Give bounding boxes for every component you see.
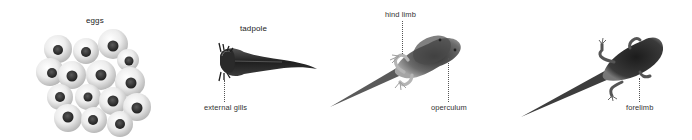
illustrations (0, 0, 692, 140)
tadpole-title: tadpole (240, 24, 267, 33)
operculum-leader-line (448, 58, 449, 102)
tadpole-hind-limbs-illustration (330, 30, 461, 107)
forelimb-label: forelimb (626, 103, 653, 112)
tadpole-illustration (219, 43, 317, 81)
hind-limb-leader-line (402, 21, 403, 54)
forelimb-leader-line (639, 78, 640, 102)
hind-limb-label: hind limb (385, 10, 416, 19)
operculum-label: operculum (431, 103, 467, 112)
life-cycle-diagram: eggs tadpole external gills hind limb op… (0, 0, 692, 140)
eggs-cluster-illustration (36, 29, 151, 137)
external-gills-leader-line (224, 80, 225, 102)
external-gills-label: external gills (204, 103, 247, 112)
eggs-title: eggs (86, 16, 104, 25)
